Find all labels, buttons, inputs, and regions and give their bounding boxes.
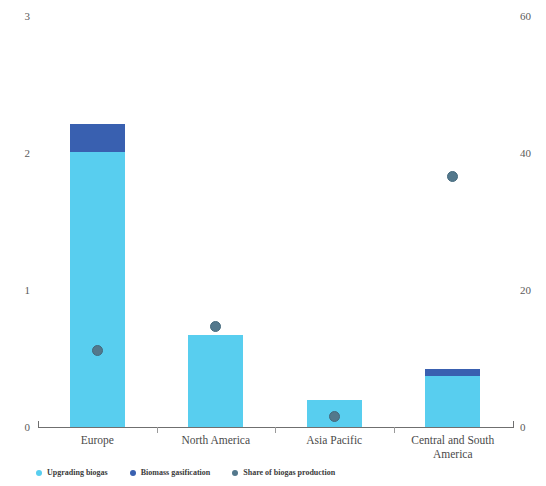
scatter-point[interactable] xyxy=(92,345,103,356)
chart-legend: Upgrading biogasBiomass gasificationShar… xyxy=(36,468,335,477)
right-axis-tick-40: 40 xyxy=(520,147,546,159)
bar-segment[interactable] xyxy=(425,369,480,376)
category-axis-labels: EuropeNorth AmericaAsia PacificCentral a… xyxy=(38,433,514,473)
plot-area: fotech xyxy=(38,10,512,428)
bar-segment[interactable] xyxy=(188,335,243,427)
scatter-point[interactable] xyxy=(329,411,340,422)
right-axis-tick-60: 60 xyxy=(520,10,546,22)
left-axis-tick-2: 2 xyxy=(2,147,30,159)
category-tick xyxy=(157,427,158,433)
right-axis-tick-20: 20 xyxy=(520,284,546,296)
legend-label: Biomass gasification xyxy=(141,468,211,477)
x-axis-line xyxy=(38,427,514,428)
right-axis: 60 40 20 0 xyxy=(520,0,546,486)
legend-label: Share of biogas production xyxy=(243,468,335,477)
bar-segment[interactable] xyxy=(425,376,480,427)
legend-item[interactable]: Share of biogas production xyxy=(232,468,335,477)
left-axis-origin-tick xyxy=(38,421,39,428)
category-label: Asia Pacific xyxy=(275,433,394,447)
category-tick xyxy=(394,427,395,433)
scatter-point[interactable] xyxy=(447,171,458,182)
category-tick xyxy=(275,427,276,433)
legend-label: Upgrading biogas xyxy=(47,468,108,477)
right-axis-tick-0: 0 xyxy=(520,421,546,433)
left-axis-tick-1: 1 xyxy=(2,284,30,296)
legend-swatch-icon xyxy=(36,470,42,476)
bar-segment[interactable] xyxy=(70,152,125,427)
legend-item[interactable]: Upgrading biogas xyxy=(36,468,108,477)
bar-group[interactable] xyxy=(425,369,480,427)
legend-swatch-icon xyxy=(232,470,238,476)
legend-item[interactable]: Biomass gasification xyxy=(130,468,211,477)
bar-segment[interactable] xyxy=(70,124,125,151)
left-axis-tick-0: 0 xyxy=(2,421,30,433)
category-label: Central and South America xyxy=(394,433,513,461)
bar-group[interactable] xyxy=(188,335,243,427)
bar-group[interactable] xyxy=(70,124,125,427)
chart-container: 3 2 1 0 60 40 20 0 fotech EuropeNorth Am… xyxy=(0,0,546,486)
legend-swatch-icon xyxy=(130,470,136,476)
left-axis-tick-3: 3 xyxy=(2,10,30,22)
right-axis-origin-tick xyxy=(513,421,514,428)
left-axis: 3 2 1 0 xyxy=(0,0,30,486)
scatter-point[interactable] xyxy=(210,321,221,332)
category-label: Europe xyxy=(38,433,157,447)
category-label: North America xyxy=(157,433,276,447)
